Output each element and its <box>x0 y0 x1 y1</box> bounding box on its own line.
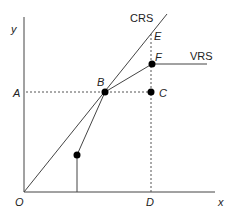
origin-label: O <box>15 196 24 208</box>
crs-frontier-line <box>24 14 167 192</box>
point-c-marker <box>148 89 155 96</box>
point-b-marker <box>102 89 109 96</box>
point-d-label: D <box>146 196 154 208</box>
point-c-label: C <box>159 87 167 99</box>
point-e-label: E <box>154 30 162 42</box>
crs-label: CRS <box>130 12 153 24</box>
point-p1-marker <box>74 152 81 159</box>
x-axis-label: x <box>217 196 224 208</box>
point-b-label: B <box>97 76 104 88</box>
y-axis-label: y <box>10 23 18 35</box>
point-a-label: A <box>12 87 20 99</box>
vrs-label: VRS <box>190 50 213 62</box>
crs-vrs-diagram: y x O CRS VRS A B C D E F <box>0 0 235 214</box>
point-f-label: F <box>155 51 163 63</box>
